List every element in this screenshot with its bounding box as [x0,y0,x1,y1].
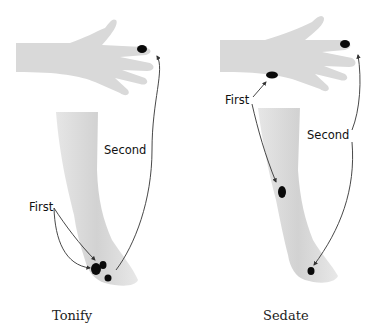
right-hand-illustration [220,16,356,91]
foot-point-2 [100,261,107,269]
tonify-caption: Tonify [52,308,92,323]
left-hand-illustration [16,19,154,95]
diagram-canvas [0,0,381,327]
tonify-first-label: First [29,200,53,214]
sedate-panel [220,16,360,283]
sedate-first-label: First [225,93,249,107]
sedate-caption: Sedate [263,308,309,323]
foot-point-3 [105,275,112,282]
tonify-second-label: Second [104,143,146,157]
left-leg-illustration [56,112,138,286]
foot-point [308,267,315,275]
foot-point-1 [91,263,101,275]
sedate-second-label: Second [307,128,349,142]
wrist-point [266,72,278,79]
first-arrow-up [253,82,266,97]
second-arrow-up [352,55,360,130]
second-arrow-down [314,142,353,265]
leg-point [278,186,286,198]
hand-point [137,45,147,53]
finger-point [340,40,350,48]
